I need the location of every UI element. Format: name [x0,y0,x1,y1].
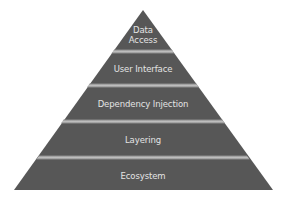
level-layering: Layering [63,135,223,145]
band-3 [61,120,225,124]
level-ecosystem: Ecosystem [63,171,223,181]
band-4 [36,156,250,160]
level-dependency-injection: Dependency Injection [63,99,223,109]
band-1 [111,50,174,54]
band-2 [87,84,199,88]
level-data-access-line2: Access [63,35,223,45]
level-data-access-line1: Data [63,25,223,35]
level-user-interface: User Interface [63,64,223,74]
